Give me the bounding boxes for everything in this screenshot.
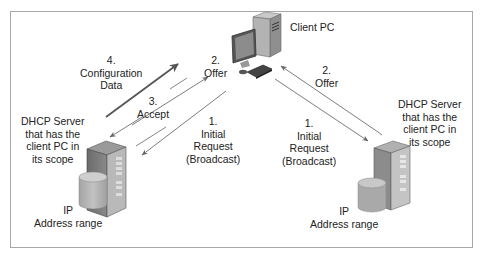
step-2-left-label: 2. Offer <box>204 54 227 79</box>
left-server-label: DHCP Server that has the client PC in it… <box>21 115 84 165</box>
desktop-computer-icon <box>232 12 281 79</box>
step-1-left-label: 1. Initial Request (Broadcast) <box>186 115 240 165</box>
step-4-label: 4. Configuration Data <box>80 54 142 92</box>
arrow-accept <box>110 117 142 137</box>
step-1-right-label: 1. Initial Request (Broadcast) <box>282 117 336 167</box>
right-ip-range-label: IP Address range <box>310 205 378 230</box>
right-server-label: DHCP Server that has the client PC in it… <box>398 98 461 148</box>
step-2-right-label: 2. Offer <box>315 64 338 89</box>
client-pc-label: Client PC <box>290 21 334 34</box>
step-3-label: 3. Accept <box>137 95 169 120</box>
left-ip-range-label: IP Address range <box>34 204 102 229</box>
